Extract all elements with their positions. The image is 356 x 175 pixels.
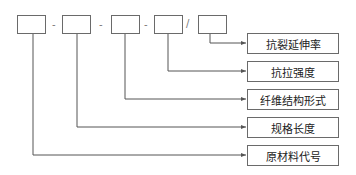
label-fiber-structure: 纤维结构形式 <box>247 89 339 110</box>
label-tensile-strength: 抗拉强度 <box>247 61 339 82</box>
code-field-2 <box>62 15 91 34</box>
separator-1: - <box>52 20 56 30</box>
code-field-1 <box>17 15 46 34</box>
separator-3: - <box>144 20 148 30</box>
code-field-4 <box>154 15 183 34</box>
label-raw-material-code: 原材料代号 <box>247 145 339 166</box>
code-field-3 <box>111 15 140 34</box>
label-spec-length: 规格长度 <box>247 117 339 138</box>
code-field-5 <box>198 15 227 34</box>
separator-2: - <box>99 20 103 30</box>
label-crack-elongation: 抗裂延伸率 <box>247 33 339 54</box>
separator-4: / <box>186 19 189 29</box>
